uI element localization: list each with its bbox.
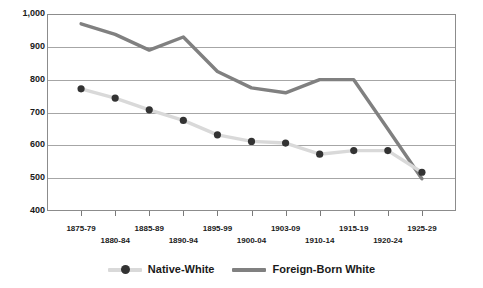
x-axis-tick (388, 211, 389, 216)
gridline (48, 145, 455, 146)
y-axis-tick-label: 500 (0, 173, 45, 182)
x-axis-tick-label: 1880-84 (100, 236, 129, 245)
gridline (48, 47, 455, 48)
x-axis-tick-label: 1915-19 (339, 224, 368, 233)
x-axis-tick (320, 211, 321, 216)
legend-label-foreign-born-white: Foreign-Born White (272, 263, 375, 275)
x-axis-tick (81, 211, 82, 216)
y-axis-tick-label: 600 (0, 140, 45, 149)
y-axis-tick-label: 700 (0, 108, 45, 117)
x-axis-tick-label: 1890-94 (169, 236, 198, 245)
gridline (48, 113, 455, 114)
y-axis-tick-label: 1,000 (0, 9, 45, 18)
legend-item-foreign-born-white[interactable]: Foreign-Born White (232, 263, 375, 275)
x-axis-tick-label: 1875-79 (66, 224, 95, 233)
legend-swatch-native-white (108, 264, 142, 275)
x-axis-tick-label: 1925-29 (407, 224, 436, 233)
x-axis-tick-label: 1900-04 (237, 236, 266, 245)
x-axis-tick-label: 1903-09 (271, 224, 300, 233)
legend-swatch-foreign-born-white (232, 264, 266, 275)
x-axis-tick-label: 1895-99 (203, 224, 232, 233)
chart-container: 4005006007008009001,000 1875-791880-8418… (0, 0, 483, 288)
legend-item-native-white[interactable]: Native-White (108, 263, 215, 275)
x-axis-tick (217, 211, 218, 216)
y-axis-tick-label: 400 (0, 206, 45, 215)
x-axis-tick (286, 211, 287, 216)
x-axis-tick (354, 211, 355, 216)
x-axis-tick-label: 1920-24 (373, 236, 402, 245)
y-axis-tick-label: 800 (0, 75, 45, 84)
x-axis-tick (183, 211, 184, 216)
y-axis-tick-label: 900 (0, 42, 45, 51)
legend-label-native-white: Native-White (148, 263, 215, 275)
x-axis-tick (149, 211, 150, 216)
gridline (48, 178, 455, 179)
gridline (48, 80, 455, 81)
chart-legend: Native-White Foreign-Born White (0, 263, 483, 275)
x-axis-tick-label: 1885-89 (135, 224, 164, 233)
x-axis-tick (115, 211, 116, 216)
x-axis-tick (252, 211, 253, 216)
x-axis-tick-label: 1910-14 (305, 236, 334, 245)
plot-area (47, 14, 456, 211)
x-axis-tick (422, 211, 423, 216)
